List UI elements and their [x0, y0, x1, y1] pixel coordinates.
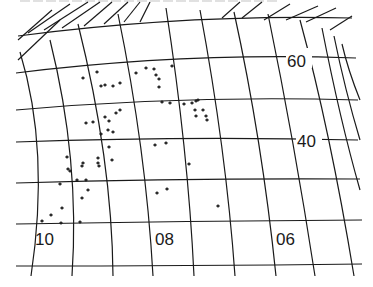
star-marker [60, 206, 63, 209]
meridian-line-2 [78, 24, 113, 276]
star-marker [96, 156, 99, 159]
label-dec-60: 60 [287, 52, 306, 71]
star-marker [103, 83, 106, 86]
star-marker [168, 101, 171, 104]
fan-line-7 [124, 2, 140, 22]
celestial-map: 60 40 10 08 06 [0, 0, 373, 287]
parallel-line-2 [16, 99, 358, 110]
star-marker [182, 102, 185, 105]
fan-line-9 [222, 2, 240, 18]
star-marker [194, 114, 197, 117]
star-marker [107, 145, 110, 148]
fan-line-13 [306, 8, 336, 22]
star-marker [144, 66, 147, 69]
star-marker [91, 120, 94, 123]
parallel-line-6 [16, 264, 362, 266]
meridian-line-11 [342, 44, 360, 100]
star-marker [96, 161, 99, 164]
label-ra-10: 10 [35, 230, 54, 249]
star-marker [81, 161, 84, 164]
star-marker [118, 81, 121, 84]
star-marker [80, 196, 83, 199]
parallel-line-5 [16, 220, 362, 224]
star-marker [111, 130, 114, 133]
star-marker [155, 191, 158, 194]
star-marker [170, 64, 173, 67]
star-marker [204, 114, 207, 117]
star-marker [157, 77, 160, 80]
star-marker [59, 221, 62, 224]
star-marker [193, 108, 196, 111]
star-marker [66, 167, 69, 170]
fan-line-5 [84, 2, 112, 26]
map-labels: 60 40 10 08 06 [35, 48, 322, 249]
star-marker [65, 155, 68, 158]
star-marker [154, 73, 157, 76]
star-marker [49, 213, 52, 216]
star-marker [40, 219, 43, 222]
star-marker [80, 164, 83, 167]
star-marker [157, 85, 160, 88]
meridian-line-9 [322, 28, 360, 190]
star-marker [106, 128, 109, 131]
fan-line-8 [140, 2, 150, 22]
star-marker [164, 141, 167, 144]
fan-line-10 [242, 2, 262, 18]
star-marker [103, 115, 106, 118]
star-marker [118, 108, 121, 111]
label-ra-06: 06 [276, 230, 295, 249]
star-marker [58, 182, 61, 185]
star-marker [190, 101, 193, 104]
star-marker [86, 188, 89, 191]
star-marker [99, 84, 102, 87]
meridian-line-6 [234, 12, 276, 276]
star-marker [84, 121, 87, 124]
label-dec-40: 40 [297, 132, 316, 151]
star-marker [107, 119, 110, 122]
star-marker [205, 118, 208, 121]
star-marker [216, 204, 219, 207]
star-marker [97, 164, 100, 167]
star-marker [111, 84, 114, 87]
fan-line-0 [18, 10, 52, 40]
star-marker [201, 108, 204, 111]
star-marker [153, 143, 156, 146]
meridian-line-10 [334, 36, 360, 140]
fan-line-2 [28, 4, 70, 33]
star-marker [110, 158, 113, 161]
meridian-line-5 [200, 10, 235, 276]
star-marker [114, 111, 117, 114]
star-marker [165, 187, 168, 190]
meridian-line-3 [118, 14, 153, 276]
star-marker [152, 67, 155, 70]
star-marker [134, 71, 137, 74]
star-points [40, 64, 219, 224]
star-marker [81, 76, 84, 79]
star-marker [95, 70, 98, 73]
label-ra-08: 08 [155, 230, 174, 249]
star-marker [187, 162, 190, 165]
